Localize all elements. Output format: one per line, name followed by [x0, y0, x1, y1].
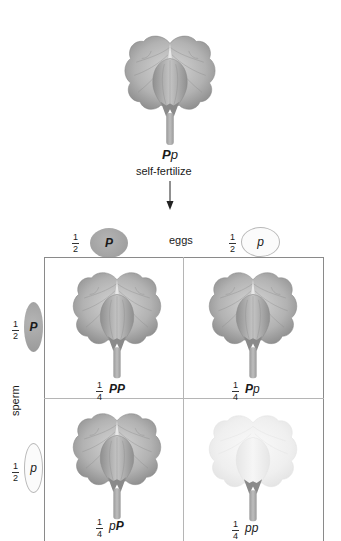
cell-pP-fraction: 1 4 [96, 518, 103, 539]
egg-P-allele: P [105, 236, 113, 250]
self-fertilize-label: self-fertilize [136, 165, 192, 177]
cell-pp-fraction: 1 4 [232, 520, 239, 541]
punnett-top-border [44, 257, 324, 258]
sperm-label: sperm [9, 385, 21, 416]
egg-p-fraction: 1 2 [229, 233, 236, 254]
cell-Pp-fraction: 1 4 [232, 381, 239, 402]
cell-PP-genotype: PP [109, 382, 125, 396]
sperm-p-gamete: p [24, 443, 43, 493]
cell-Pp-flower-image [206, 267, 300, 381]
punnett-vertical-divider [183, 257, 184, 541]
cell-pp-flower-image [206, 410, 300, 524]
cell-PP-flower-image [70, 267, 164, 381]
cell-PP-fraction: 1 4 [96, 381, 103, 402]
eggs-label: eggs [169, 234, 193, 246]
egg-p-gamete: p [241, 227, 280, 257]
egg-P-fraction: 1 2 [72, 233, 79, 254]
sperm-P-fraction: 1 2 [12, 320, 19, 341]
egg-p-allele: p [257, 235, 264, 249]
parent-allele-recessive: p [171, 147, 178, 162]
sperm-P-gamete: P [24, 302, 43, 352]
parent-allele-dominant: P [162, 147, 171, 162]
parent-genotype: Pp [162, 147, 178, 162]
punnett-horizontal-divider [44, 398, 324, 399]
down-arrow-icon [165, 181, 175, 211]
parent-flower-image [123, 30, 217, 148]
sperm-p-allele: p [30, 461, 37, 475]
cell-pP-flower-image [70, 408, 164, 522]
cell-pP-genotype: pP [109, 519, 124, 533]
punnett-right-border [323, 257, 324, 541]
egg-P-gamete: P [90, 228, 128, 258]
sperm-P-allele: P [29, 320, 37, 334]
punnett-left-border [44, 257, 45, 541]
cell-pp-genotype: pp [245, 521, 258, 535]
cell-Pp-genotype: Pp [245, 382, 260, 396]
sperm-p-fraction: 1 2 [12, 462, 19, 483]
